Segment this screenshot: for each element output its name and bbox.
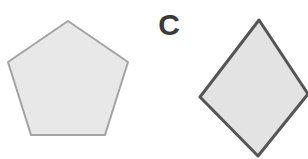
pentagon-shape[interactable] — [8, 21, 128, 135]
shape-canvas: C — [0, 0, 308, 159]
shape-group-label-c: C — [152, 7, 186, 43]
diamond-shape[interactable] — [200, 20, 308, 156]
